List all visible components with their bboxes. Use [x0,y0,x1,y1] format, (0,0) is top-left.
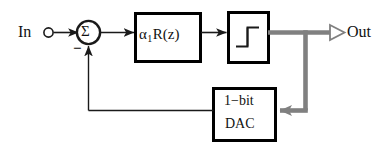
quantizer-block [229,13,269,63]
dac-label-line2: DAC [225,117,255,131]
gain-transfer: R(z) [153,26,180,42]
gain-alpha: α [139,26,147,42]
block-diagram-canvas: In Σ − α1R(z) 1−bit DAC Out [0,0,387,151]
diagram-vector-layer [0,0,387,151]
feedback-path-gray [268,30,330,110]
summer-sigma-label: Σ [81,24,90,39]
output-terminal-icon [330,25,345,40]
edge-input-to-summer [44,28,79,37]
summer-negative-sign: − [73,41,82,56]
input-label: In [18,24,31,40]
output-label: Out [347,24,371,40]
dac-label-line1: 1−bit [224,94,254,108]
gain-filter-label: α1R(z) [139,27,180,44]
